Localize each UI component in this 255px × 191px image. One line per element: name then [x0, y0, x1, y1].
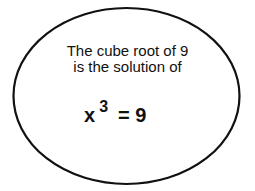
equation-base: x: [84, 104, 95, 127]
equation: x3= 9: [84, 104, 146, 127]
caption-line-1: The cube root of 9: [0, 43, 255, 59]
equation-rhs: = 9: [118, 104, 146, 127]
ellipse-outline: [0, 0, 255, 191]
caption-line-2: is the solution of: [0, 59, 255, 75]
equation-exponent: 3: [99, 98, 108, 116]
